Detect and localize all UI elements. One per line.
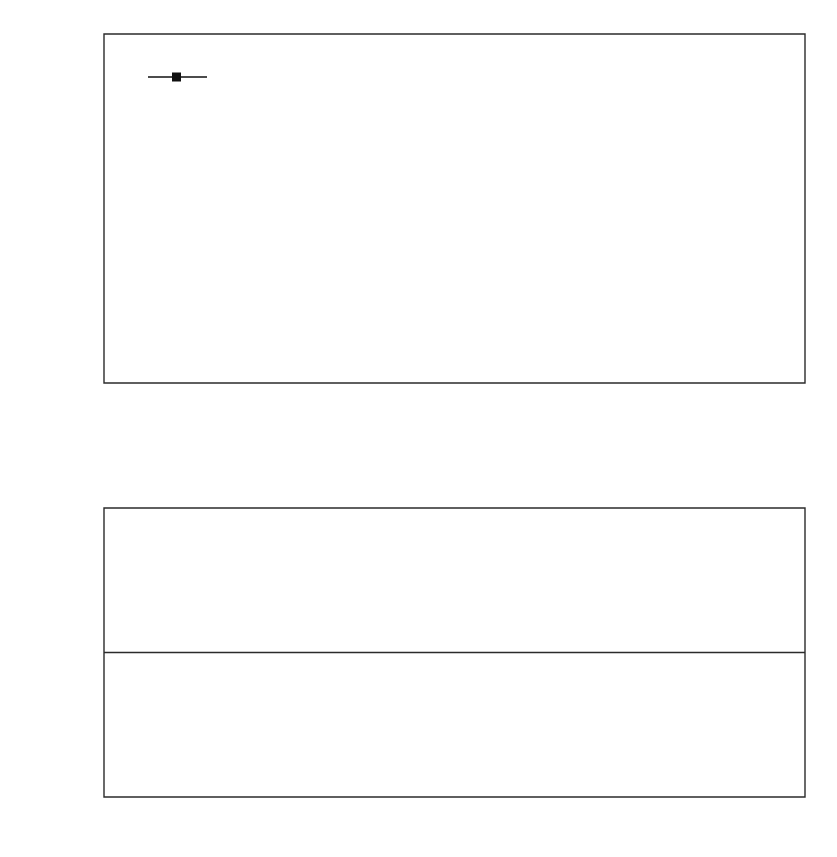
top-legend: [148, 73, 207, 82]
legend-sample-marker: [172, 73, 181, 82]
figure-container: [0, 0, 837, 857]
charts-svg: [0, 0, 837, 857]
top-chart: [104, 34, 805, 383]
top-plot-frame: [104, 34, 805, 383]
cropped-caption-region: [0, 0, 837, 14]
bottom-chart: [104, 508, 805, 797]
